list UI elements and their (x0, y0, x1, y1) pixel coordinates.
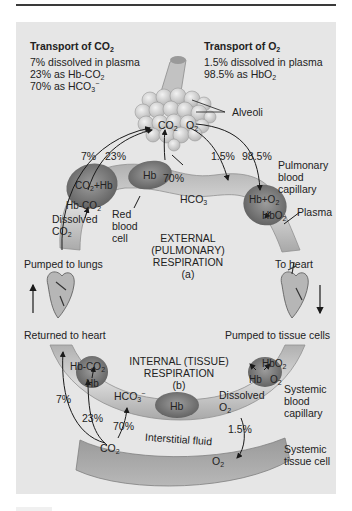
dissolved-o2-label-1: Dissolved (219, 389, 265, 401)
pct-98-5-hbo2-top: 98.5% (242, 150, 272, 162)
co2-transport-line-3: 70% as HCO3− (30, 80, 99, 92)
systemic-capillary-label-3: capillary (284, 407, 323, 419)
hco3-bottom-label: HCO3− (114, 390, 145, 402)
heart-right-icon (281, 262, 308, 318)
plasma-label: Plasma (297, 206, 332, 218)
pulmonary-capillary-label-3: capillary (278, 183, 317, 195)
hb-top-label: Hb (143, 169, 156, 181)
external-respiration-label-4: (a) (140, 268, 236, 280)
pct-70-hco3-bottom: 70% (113, 420, 134, 432)
pct-70-hco3-top: 70% (163, 172, 184, 184)
o2-transport-line-1: 1.5% dissolved in plasma (204, 56, 322, 68)
dissolved-o2-label-2: O2 (219, 401, 231, 413)
o2-transport-title: Transport of O2 (204, 40, 280, 52)
external-respiration-label-2: (PULMONARY) (140, 244, 236, 256)
external-respiration-label-3: RESPIRATION (140, 256, 236, 268)
red-blood-cell-label-2: blood (112, 220, 138, 232)
systemic-capillary-label-2: blood (284, 395, 310, 407)
pct-7-dissolved-bottom: 7% (56, 393, 71, 405)
hco3-top-label: HCO3 (180, 193, 207, 205)
alveolar-co2-label: CO2 (158, 119, 178, 131)
figure-footer-tab (16, 507, 52, 511)
internal-respiration-label-2: RESPIRATION (124, 367, 234, 379)
returned-to-heart-label: Returned to heart (24, 329, 106, 341)
external-respiration-label-1: EXTERNAL (140, 232, 236, 244)
pumped-to-lungs-label: Pumped to lungs (24, 258, 103, 270)
red-blood-cell-label-1: Red (112, 208, 131, 220)
o2-bottom-right-label: O2 (270, 374, 282, 386)
o2-transport-line-2: 98.5% as HbO2 (204, 68, 276, 80)
hb-co2-bottom-label: Hb-CO2 (70, 361, 105, 373)
pumped-to-tissue-cells-label: Pumped to tissue cells (225, 329, 330, 341)
alveoli-label: Alveoli (232, 106, 263, 118)
hb-co2-top-label: Hb-CO2 (66, 200, 101, 212)
hbo2-top-label: HbO2 (262, 210, 286, 222)
tissue-co2-label: CO2 (100, 442, 120, 454)
systemic-capillary-label-1: Systemic (284, 383, 327, 395)
co2-transport-line-1: 7% dissolved in plasma (30, 56, 140, 68)
co2-plus-hb-label: CO2+Hb (75, 180, 113, 192)
hb-bottom-cell-label: Hb (86, 378, 99, 390)
pct-23-hbco2-top: 23% (105, 150, 126, 162)
tissue-o2-label: O2 (212, 455, 224, 467)
co2-transport-line-2: 23% as Hb-CO2 (30, 68, 105, 80)
hb-bottom-right-label: Hb (249, 374, 262, 386)
systemic-tissue-cell-label-1: Systemic (284, 443, 327, 455)
to-heart-label: To heart (275, 258, 313, 270)
co2-transport-title: Transport of CO2 (30, 40, 114, 52)
pct-7-dissolved-top: 7% (81, 150, 96, 162)
pct-1-5-dissolved-top: 1.5% (211, 150, 235, 162)
hbo2-bottom-label: HbO2 (262, 358, 286, 370)
heart-left-icon (47, 272, 74, 318)
alveolar-o2-label: O2 (186, 119, 198, 131)
internal-respiration-label-1: INTERNAL (TISSUE) (124, 355, 234, 367)
pct-1-5-dissolved-bottom: 1.5% (228, 423, 252, 435)
dissolved-co2-label-2: CO2 (52, 225, 72, 237)
pulmonary-capillary-label-1: Pulmonary (278, 159, 328, 171)
dissolved-co2-label-1: Dissolved (52, 213, 98, 225)
pct-23-hbco2-bottom: 23% (82, 412, 103, 424)
hb-bottom-middle-label: Hb (170, 400, 183, 412)
red-blood-cell-label-3: cell (112, 232, 128, 244)
hb-plus-o2-label: Hb+O2 (249, 194, 279, 206)
pulmonary-capillary-label-2: blood (278, 171, 304, 183)
systemic-tissue-cell-label-2: tissue cell (284, 455, 330, 467)
